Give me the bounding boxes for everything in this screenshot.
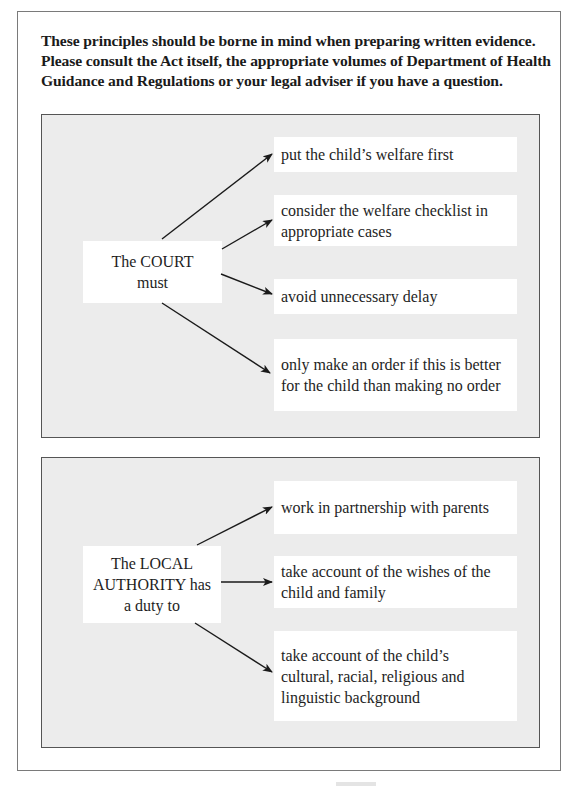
la-label-line: AUTHORITY has bbox=[93, 574, 211, 595]
court-label-line: must bbox=[137, 272, 168, 293]
court-duty-welfare-checklist: consider the welfare checklist in approp… bbox=[274, 195, 517, 246]
la-label-line: The LOCAL bbox=[111, 553, 193, 574]
duty-text: take account of the wishes of the bbox=[281, 561, 517, 582]
page-tab-marker bbox=[336, 782, 376, 786]
duty-text: for the child than making no order bbox=[281, 375, 517, 396]
court-label-line: The COURT bbox=[111, 251, 193, 272]
duty-text: child and family bbox=[281, 582, 517, 603]
la-duty-partnership: work in partnership with parents bbox=[274, 481, 517, 534]
la-duty-wishes: take account of the wishes of the child … bbox=[274, 556, 517, 608]
duty-text: only make an order if this is better bbox=[281, 354, 517, 375]
court-duty-welfare-first: put the child’s welfare first bbox=[274, 137, 517, 172]
intro-text: These principles should be borne in mind… bbox=[41, 31, 561, 91]
court-duty-no-order-principle: only make an order if this is better for… bbox=[274, 339, 517, 411]
la-duty-background: take account of the child’s cultural, ra… bbox=[274, 631, 517, 721]
duty-text: work in partnership with parents bbox=[281, 497, 517, 518]
intro-line: Please consult the Act itself, the appro… bbox=[41, 51, 561, 71]
duty-text: appropriate cases bbox=[281, 221, 517, 242]
court-label-box: The COURT must bbox=[83, 241, 222, 303]
duty-text: cultural, racial, religious and bbox=[281, 666, 517, 687]
intro-line: Guidance and Regulations or your legal a… bbox=[41, 71, 561, 91]
court-duty-avoid-delay: avoid unnecessary delay bbox=[274, 279, 517, 314]
local-authority-label-box: The LOCAL AUTHORITY has a duty to bbox=[83, 546, 221, 623]
la-label-line: a duty to bbox=[124, 595, 180, 616]
duty-text: put the child’s welfare first bbox=[281, 144, 517, 165]
duty-text: consider the welfare checklist in bbox=[281, 200, 517, 221]
duty-text: take account of the child’s bbox=[281, 645, 517, 666]
intro-line: These principles should be borne in mind… bbox=[41, 31, 561, 51]
duty-text: avoid unnecessary delay bbox=[281, 286, 517, 307]
duty-text: linguistic background bbox=[281, 687, 517, 708]
